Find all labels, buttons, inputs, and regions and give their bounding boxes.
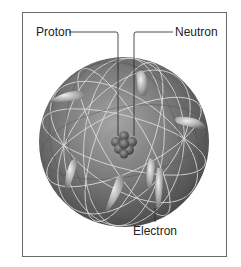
label-proton: Proton <box>36 26 71 38</box>
label-electron: Electron <box>133 225 177 237</box>
label-neutron: Neutron <box>175 26 218 38</box>
atom-illustration <box>0 0 241 267</box>
